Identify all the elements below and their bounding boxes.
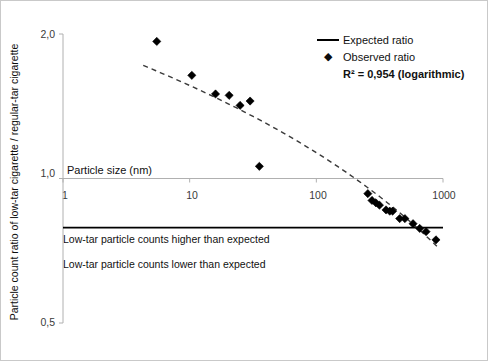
data-point-diamond <box>364 190 372 198</box>
data-point-diamond <box>401 215 409 223</box>
data-point-diamond <box>246 97 254 105</box>
data-point-diamond <box>255 162 263 170</box>
data-point-diamond <box>432 236 440 244</box>
data-point-diamond <box>225 91 233 99</box>
chart-figure: Particle count ratio of low-tar cigarett… <box>0 0 488 361</box>
data-point-diamond <box>153 37 161 45</box>
trendline-logarithmic <box>143 65 439 248</box>
observed-ratio-points <box>153 37 440 244</box>
data-point-diamond <box>188 71 196 79</box>
plot-canvas <box>1 1 488 361</box>
